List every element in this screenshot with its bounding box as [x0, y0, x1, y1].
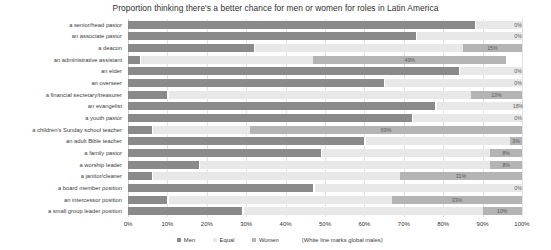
bar-segment-men[interactable] [128, 44, 254, 52]
bar-segment-equal[interactable] [254, 44, 463, 52]
global-male-marker [199, 160, 200, 169]
legend-swatch-icon [213, 238, 217, 242]
category-label: an intercessor position [0, 196, 122, 204]
category-label: a board member position [0, 184, 122, 192]
bar-segment-equal[interactable] [152, 126, 251, 134]
bar-row[interactable]: 49% [128, 56, 522, 64]
bar-row[interactable]: 0% [128, 32, 522, 40]
bar-row[interactable]: 31% [128, 172, 522, 180]
x-tick-label: 20% [201, 219, 213, 229]
bar-row[interactable]: 8% [128, 149, 522, 157]
category-label: an elder [0, 67, 122, 75]
value-label: 8% [492, 161, 520, 169]
bar-row[interactable]: 69% [128, 126, 522, 134]
category-label: an administrative assistant [0, 56, 122, 64]
bar-segment-men[interactable] [128, 184, 313, 192]
x-tick-label: 50% [319, 219, 331, 229]
bar-segment-equal[interactable] [167, 91, 470, 99]
bar-segment-men[interactable] [128, 102, 435, 110]
bar-segment-men[interactable] [128, 207, 242, 215]
value-label: 0% [504, 32, 532, 40]
x-tick-label: 80% [437, 219, 449, 229]
bar-segment-men[interactable] [128, 196, 167, 204]
value-label: 10% [488, 207, 516, 215]
plot-area: 0%0%15%49%0%0%13%18%0%69%3%8%8%31%0%33%1… [128, 19, 522, 217]
bar-row[interactable]: 33% [128, 196, 522, 204]
global-male-marker [313, 183, 314, 192]
value-label: 15% [478, 44, 506, 52]
category-label: an overseer [0, 79, 122, 87]
global-male-marker [321, 148, 322, 157]
bar-segment-men[interactable] [128, 114, 412, 122]
bar-segment-men[interactable] [128, 161, 199, 169]
category-label: an associate pastor [0, 32, 122, 40]
bar-segment-men[interactable] [128, 79, 384, 87]
category-axis: a senior/head pastoran associate pastora… [0, 19, 126, 217]
bar-segment-equal[interactable] [152, 172, 400, 180]
global-male-marker [167, 90, 168, 99]
bar-segment-equal[interactable] [364, 137, 510, 145]
category-label: a family pastor [0, 149, 122, 157]
category-label: a senior/head pastor [0, 21, 122, 29]
global-male-marker [475, 20, 476, 29]
legend-label: Men [184, 237, 195, 243]
legend-note: (White line marks global males) [302, 236, 383, 245]
legend-item-men[interactable]: Men [177, 236, 195, 245]
bar-segment-equal[interactable] [242, 207, 482, 215]
legend-label: Women [259, 237, 279, 243]
bar-segment-men[interactable] [128, 126, 152, 134]
bar-segment-equal[interactable] [313, 184, 522, 192]
bar-segment-men[interactable] [128, 67, 459, 75]
global-male-marker [435, 102, 436, 111]
category-label: an evangelist [0, 102, 122, 110]
global-male-marker [384, 79, 385, 88]
bar-segment-men[interactable] [128, 32, 416, 40]
category-label: an adult Bible teacher [0, 137, 122, 145]
x-tick-label: 10% [161, 219, 173, 229]
bar-segment-men[interactable] [128, 21, 475, 29]
legend-item-equal[interactable]: Equal [213, 236, 234, 245]
bar-segment-men[interactable] [128, 91, 167, 99]
bar-segment-equal[interactable] [321, 149, 490, 157]
x-tick-label: 0% [124, 219, 133, 229]
bar-row[interactable]: 0% [128, 114, 522, 122]
bar-segment-equal[interactable] [167, 196, 392, 204]
value-label: 18% [504, 102, 532, 110]
legend-swatch-icon [252, 238, 256, 242]
bar-row[interactable]: 3% [128, 137, 522, 145]
bar-segment-equal[interactable] [140, 56, 313, 64]
global-male-marker [242, 207, 243, 216]
global-male-marker [167, 195, 168, 204]
value-label: 13% [482, 91, 510, 99]
x-tick-label: 100% [514, 219, 529, 229]
bar-row[interactable]: 15% [128, 44, 522, 52]
bar-row[interactable]: 8% [128, 161, 522, 169]
bar-row[interactable]: 18% [128, 102, 522, 110]
bar-row[interactable]: 10% [128, 207, 522, 215]
global-male-marker [152, 172, 153, 181]
value-label: 0% [504, 114, 532, 122]
global-male-marker [459, 67, 460, 76]
value-label: 33% [443, 196, 471, 204]
value-label: 8% [492, 149, 520, 157]
bar-row[interactable]: 0% [128, 184, 522, 192]
global-male-marker [412, 114, 413, 123]
legend-item-women[interactable]: Women [252, 236, 278, 245]
bar-segment-equal[interactable] [199, 161, 491, 169]
bar-row[interactable]: 13% [128, 91, 522, 99]
bar-segment-men[interactable] [128, 137, 364, 145]
global-male-marker [140, 55, 141, 64]
bar-segment-men[interactable] [128, 172, 152, 180]
bar-row[interactable]: 0% [128, 67, 522, 75]
bar-segment-equal[interactable] [384, 79, 522, 87]
bar-row[interactable]: 0% [128, 21, 522, 29]
x-axis: 0%10%20%30%40%50%60%70%80%90%100% [128, 219, 522, 231]
bar-row[interactable]: 0% [128, 79, 522, 87]
chart-title: Proportion thinking there's a better cha… [0, 3, 551, 14]
category-label: a janitor/cleaner [0, 172, 122, 180]
x-tick-label: 30% [240, 219, 252, 229]
value-label: 0% [504, 21, 532, 29]
bar-segment-men[interactable] [128, 149, 321, 157]
global-male-marker [152, 125, 153, 134]
bar-segment-men[interactable] [128, 56, 140, 64]
